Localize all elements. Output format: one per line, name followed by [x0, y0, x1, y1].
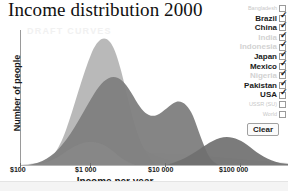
chart-screenshot: DRAFT CURVES Income distribution 2000 Nu… [0, 0, 288, 191]
legend-item-nigeria[interactable]: Nigeria [228, 71, 286, 81]
legend-label: Pakistan [244, 81, 279, 91]
legend-item-bangladesh[interactable]: Bangladesh [228, 4, 286, 14]
x-tick-label-1000: $1 000 [75, 166, 96, 173]
legend-label: China [255, 23, 279, 33]
legend-label: Indonesia [240, 42, 279, 52]
page-title: Income distribution 2000 [8, 0, 203, 21]
legend-label: Brazil [255, 14, 279, 24]
checkbox-ussr[interactable] [279, 101, 286, 108]
legend-label: Bangladesh [248, 4, 279, 14]
checkbox-world[interactable] [279, 111, 286, 118]
legend-item-brazil[interactable]: Brazil [228, 14, 286, 24]
x-tick-label-100000: $100 000 [219, 166, 248, 173]
legend-item-ussr[interactable]: USSR (SU) [228, 100, 286, 110]
y-axis-label: Number of people [12, 43, 22, 143]
clear-button[interactable]: Clear [247, 123, 279, 136]
bottom-strip [0, 181, 288, 191]
country-legend: Bangladesh Brazil China India Indonesia … [228, 4, 286, 119]
legend-item-mexico[interactable]: Mexico [228, 62, 286, 72]
legend-item-china[interactable]: China [228, 23, 286, 33]
legend-item-indonesia[interactable]: Indonesia [228, 42, 286, 52]
legend-label: USA [260, 90, 279, 100]
legend-label: Nigeria [250, 71, 279, 81]
legend-item-japan[interactable]: Japan [228, 52, 286, 62]
legend-label: World [263, 110, 279, 120]
x-tick-label-100: $100 [10, 166, 26, 173]
legend-label: India [258, 33, 279, 43]
legend-item-pakistan[interactable]: Pakistan [228, 81, 286, 91]
legend-item-world[interactable]: World [228, 110, 286, 120]
legend-item-usa[interactable]: USA [228, 90, 286, 100]
legend-label: Japan [254, 52, 279, 62]
area-india [28, 77, 222, 166]
x-tick-label-10000: $10 000 [148, 166, 173, 173]
legend-item-india[interactable]: India [228, 33, 286, 43]
legend-label: Mexico [250, 62, 279, 72]
legend-label: USSR (SU) [249, 100, 279, 110]
checkbox-usa[interactable] [279, 92, 286, 99]
